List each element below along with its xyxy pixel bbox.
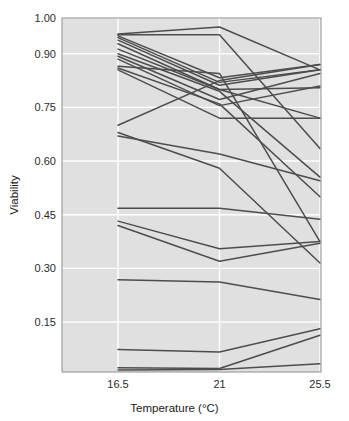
chart-canvas: 0.150.300.450.600.750.901.00 16.52125.5 …	[0, 0, 349, 421]
y-tick-label: 0.60	[35, 155, 56, 167]
x-axis-tick-labels: 16.52125.5	[107, 378, 330, 390]
x-axis-title: Temperature (°C)	[130, 402, 218, 414]
y-tick-label: 1.00	[35, 12, 56, 24]
y-tick-label: 0.90	[35, 48, 56, 60]
y-tick-label: 0.75	[35, 101, 56, 113]
x-tick-label: 21	[213, 378, 225, 390]
x-tick-label: 25.5	[309, 378, 330, 390]
viability-temperature-line-chart: 0.150.300.450.600.750.901.00 16.52125.5 …	[0, 0, 349, 421]
x-tick-label: 16.5	[107, 378, 128, 390]
y-axis-tick-labels: 0.150.300.450.600.750.901.00	[35, 12, 56, 328]
y-axis-title: Viability	[8, 175, 20, 215]
y-tick-label: 0.45	[35, 209, 56, 221]
y-tick-label: 0.30	[35, 262, 56, 274]
y-tick-label: 0.15	[35, 316, 56, 328]
